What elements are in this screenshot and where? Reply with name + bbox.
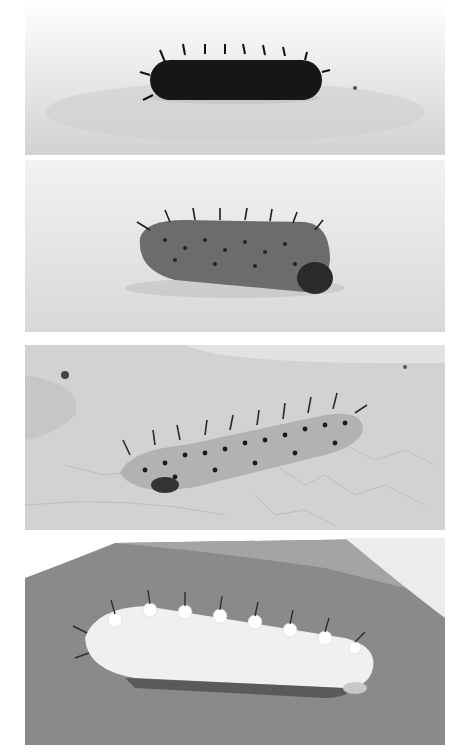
photo-panel-2 <box>25 160 445 332</box>
photo-panel-4 <box>25 538 445 745</box>
photo-panel-1 <box>25 0 445 155</box>
caterpillar-photo-pale <box>25 538 445 745</box>
photo-panel-3 <box>25 345 445 530</box>
caterpillar-photo-leaf <box>25 345 445 530</box>
caterpillar-photo-gray <box>25 160 445 332</box>
caterpillar-photo-dark <box>25 0 445 155</box>
